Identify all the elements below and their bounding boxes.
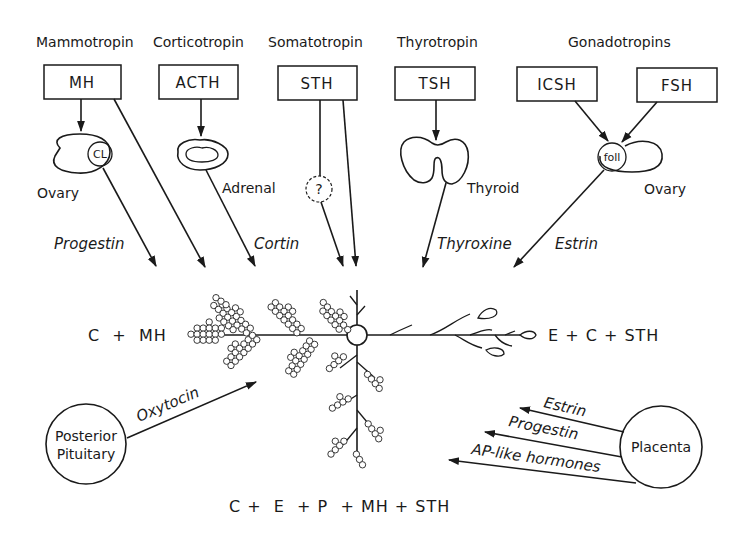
ovary-right-label: Ovary (644, 181, 686, 197)
gonadotropins-label: Gonadotropins (568, 34, 671, 50)
mammotropin-label: Mammotropin (36, 34, 134, 50)
adrenal-gland (178, 140, 228, 170)
svg-text:Posterior: Posterior (55, 428, 117, 444)
left-formula: C + MH (88, 326, 167, 345)
thyroxine-label: Thyroxine (437, 235, 512, 253)
corpus-luteum-label: CL (93, 148, 108, 161)
unknown-gland: ? (306, 176, 332, 202)
thyroid-gland (401, 137, 469, 184)
placenta: Placenta (620, 406, 702, 488)
svg-text:Pituitary: Pituitary (57, 446, 115, 462)
svg-text:TSH: TSH (418, 75, 452, 93)
icsh-box: ICSH (517, 67, 597, 101)
svg-text:STH: STH (301, 75, 334, 93)
sth-box: STH (278, 66, 357, 100)
adrenal-label: Adrenal (222, 180, 276, 196)
svg-text:MH: MH (69, 74, 95, 92)
thyrotropin-label: Thyrotropin (396, 34, 478, 50)
bottom-formula: C + E + P + MH + STH (229, 497, 450, 516)
svg-text:Placenta: Placenta (631, 439, 691, 455)
progestin-label: Progestin (54, 235, 125, 253)
mh-direct-arrow (114, 99, 205, 267)
unknown-to-mammary-arrow (321, 202, 343, 266)
mh-box: MH (44, 65, 121, 99)
tsh-box: TSH (395, 67, 475, 100)
oxytocin-label: Oxytocin (134, 383, 202, 426)
cortin-label: Cortin (254, 235, 299, 253)
fsh-box: FSH (637, 68, 717, 102)
fsh-to-follicle-arrow (622, 102, 657, 142)
somatotropin-label: Somatotropin (268, 34, 363, 50)
svg-text:ACTH: ACTH (176, 74, 221, 92)
acth-box: ACTH (159, 65, 238, 99)
sth-direct-arrow (343, 100, 356, 266)
estrin-label: Estrin (555, 235, 598, 253)
follicle-label: foll (604, 151, 621, 164)
svg-text:ICSH: ICSH (537, 76, 577, 94)
thyroxine-arrow (423, 183, 446, 267)
svg-text:FSH: FSH (661, 77, 693, 95)
right-formula: E + C + STH (548, 326, 659, 345)
icsh-to-follicle-arrow (575, 101, 608, 141)
placenta-estrin-label: Estrin (542, 393, 588, 420)
svg-text:?: ? (315, 181, 322, 197)
posterior-pituitary: Posterior Pituitary (46, 404, 126, 484)
alveoli-clusters (188, 295, 384, 468)
thyroid-label: Thyroid (466, 180, 520, 196)
ovary-left-gland: CL (54, 134, 112, 173)
ovary-right-gland: foll (598, 141, 662, 172)
mammary-endocrine-diagram: Mammotropin Corticotropin Somatotropin T… (0, 0, 750, 538)
corticotropin-label: Corticotropin (153, 34, 244, 50)
ovary-left-label: Ovary (37, 185, 79, 201)
